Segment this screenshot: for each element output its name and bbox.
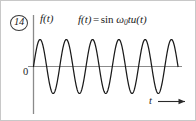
equation-lhs: f(t) bbox=[78, 13, 91, 25]
figure-container: 14 f(t) f(t)=sin ω0tu(t) 0 t bbox=[0, 0, 196, 121]
t-axis-arrow bbox=[158, 99, 185, 104]
equation-equals-sign: = bbox=[91, 13, 100, 25]
equation-sin-function: sin bbox=[101, 13, 114, 25]
problem-number-badge: 14 bbox=[10, 15, 28, 31]
origin-label: 0 bbox=[23, 67, 28, 78]
t-axis-label: t bbox=[149, 96, 152, 107]
y-axis-label: f(t) bbox=[40, 13, 53, 24]
equation-label: f(t)=sin ω0tu(t) bbox=[78, 14, 147, 26]
equation-omega-symbol: ω bbox=[116, 13, 124, 25]
equation-step-function: u(t) bbox=[131, 13, 147, 25]
